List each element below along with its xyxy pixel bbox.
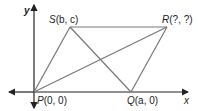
point-label-S: S(b, c) [49,14,78,25]
diagonal-SQ [70,27,131,92]
segment-RQ [131,27,167,92]
segment-PS [34,27,70,92]
point-coords-Q: (a, 0) [135,95,158,106]
x-axis-label: x [183,95,190,106]
point-coords-S: (b, c) [56,14,79,25]
point-coords-P: (0, 0) [44,95,67,106]
point-name-R: R [162,14,169,25]
diagram-canvas: y x S(b, c) R(?, ?) P(0, 0) Q(a, 0) [0,0,198,111]
y-axis-label: y [23,5,30,16]
point-label-Q: Q(a, 0) [127,95,158,106]
point-label-P: P(0, 0) [37,95,67,106]
point-coords-R: (?, ?) [169,14,192,25]
point-label-R: R(?, ?) [162,14,193,25]
